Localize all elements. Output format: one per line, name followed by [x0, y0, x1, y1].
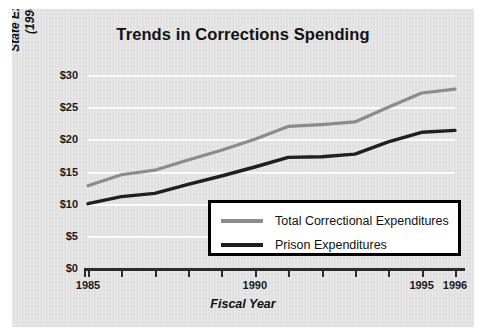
x-axis-line: [84, 268, 465, 271]
x-axis-tick-label: 1985: [76, 279, 100, 291]
x-axis-tick: [88, 271, 90, 277]
x-axis-tick: [388, 271, 390, 277]
x-axis-tick-label: 1995: [409, 279, 433, 291]
series-line: [88, 130, 455, 203]
x-axis-tick: [355, 271, 357, 277]
x-axis-tick: [221, 271, 223, 277]
legend-item[interactable]: Prison Expenditures: [221, 234, 387, 256]
chart-figure: Trends in Corrections Spending State Exp…: [12, 9, 474, 327]
x-axis-tick: [255, 271, 257, 277]
x-axis-tick: [288, 271, 290, 277]
y-axis-tick-label: $25: [60, 101, 78, 113]
y-axis-tick-label: $0: [66, 262, 78, 274]
chart-legend: Total Correctional ExpendituresPrison Ex…: [208, 200, 461, 256]
x-axis-tick: [422, 271, 424, 277]
x-axis-tick: [155, 271, 157, 277]
y-axis-tick-label: $30: [60, 69, 78, 81]
legend-color-swatch: [221, 243, 263, 247]
x-axis-tick: [121, 271, 123, 277]
y-axis-tick-label: $15: [60, 166, 78, 178]
legend-label: Prison Expenditures: [275, 238, 387, 252]
legend-color-swatch: [221, 219, 263, 223]
x-axis-tick-label: 1990: [243, 279, 267, 291]
legend-label: Total Correctional Expenditures: [275, 214, 449, 228]
x-axis-tick-label: 1996: [443, 279, 467, 291]
x-axis-tick: [322, 271, 324, 277]
y-axis-tick-label: $10: [60, 198, 78, 210]
x-axis-tick: [455, 271, 457, 277]
x-axis-left-cap: [84, 271, 86, 277]
y-axis-tick-label: $20: [60, 133, 78, 145]
y-axis-tick-label: $5: [66, 230, 78, 242]
x-axis-title: Fiscal Year: [12, 297, 474, 311]
x-axis-tick: [188, 271, 190, 277]
legend-item[interactable]: Total Correctional Expenditures: [221, 210, 449, 232]
